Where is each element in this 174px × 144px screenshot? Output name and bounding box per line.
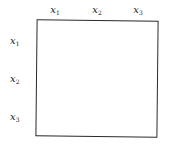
column-label-x2: x2 <box>92 5 101 16</box>
row-label-x3: x3 <box>10 112 19 123</box>
row-label-x2: x2 <box>10 74 19 85</box>
row-label-x1: x1 <box>10 36 19 47</box>
matrix-box <box>35 19 158 137</box>
column-label-x1: x1 <box>50 5 59 16</box>
column-label-x3: x3 <box>133 5 142 16</box>
